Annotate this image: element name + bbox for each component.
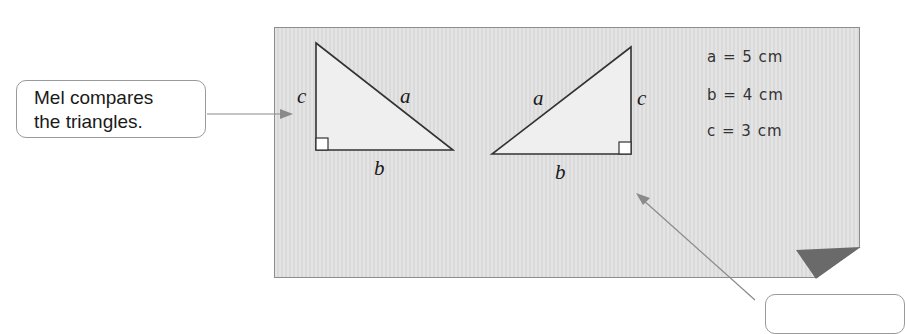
- measurement-c: c = 3 cm: [707, 122, 783, 140]
- right-triangle-label-b: b: [555, 160, 566, 185]
- bottom-callout-arrow-line: [642, 199, 755, 300]
- right-triangle-label-a: a: [533, 86, 544, 111]
- bottom-callout-box: [765, 294, 905, 334]
- callout-mel-compares: Mel compares the triangles.: [16, 80, 206, 138]
- left-triangle-label-c: c: [297, 84, 306, 109]
- callout-line-2: the triangles.: [34, 110, 205, 134]
- measurement-b: b = 4 cm: [707, 86, 784, 104]
- left-triangle-label-a: a: [400, 84, 411, 109]
- right-triangle-label-c: c: [637, 86, 646, 111]
- arrowhead-icon: [636, 193, 650, 205]
- right-angle-marker-left: [316, 138, 328, 150]
- arrowhead-icon: [280, 109, 293, 119]
- left-triangle-label-b: b: [374, 156, 385, 181]
- right-angle-marker-right: [619, 142, 631, 154]
- measurement-a: a = 5 cm: [707, 48, 783, 66]
- callout-line-1: Mel compares: [34, 86, 205, 110]
- left-triangle: [316, 43, 453, 150]
- right-triangle: [492, 47, 631, 154]
